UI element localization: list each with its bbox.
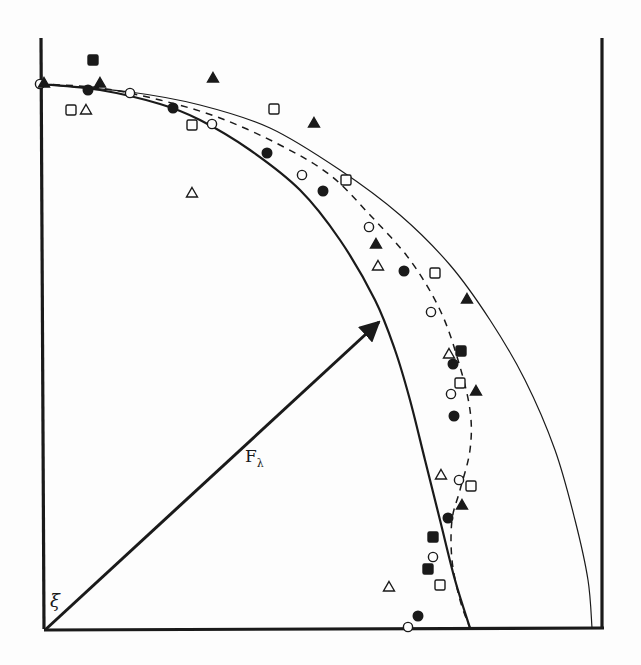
triangle-open-marker	[444, 349, 455, 359]
circle-open-marker	[403, 622, 412, 631]
circle-filled-marker	[168, 103, 178, 113]
triangle-open-marker	[81, 105, 92, 115]
series-open-triangle	[81, 105, 455, 592]
series-filled-triangle	[39, 73, 482, 510]
triangle-filled-marker	[95, 78, 106, 88]
triangle-filled-marker	[371, 239, 382, 249]
circle-filled-marker	[413, 611, 423, 621]
square-filled-marker	[428, 532, 438, 542]
vector-label-f: Fλ	[245, 446, 264, 470]
circle-open-marker	[207, 119, 216, 128]
circle-open-marker	[428, 552, 437, 561]
vector-arrow	[45, 322, 379, 630]
force-vector	[45, 322, 379, 630]
square-open-marker	[341, 175, 351, 185]
dashed-curve	[40, 84, 471, 628]
square-open-marker	[435, 580, 445, 590]
square-open-marker	[187, 120, 197, 130]
triangle-filled-marker	[457, 500, 468, 510]
series-open-square	[66, 104, 476, 590]
triangle-open-marker	[436, 470, 447, 480]
square-open-marker	[455, 378, 465, 388]
circle-filled-marker	[449, 411, 459, 421]
square-filled-marker	[423, 564, 433, 574]
circle-open-marker	[125, 88, 134, 97]
figure: ξ Fλ	[0, 0, 641, 665]
left-axis	[41, 38, 44, 629]
data-markers	[35, 55, 481, 632]
circle-filled-marker	[262, 148, 272, 158]
series-open-circle	[35, 79, 463, 631]
square-open-marker	[269, 104, 279, 114]
curves	[40, 84, 592, 628]
square-open-marker	[66, 105, 76, 115]
circle-open-marker	[364, 222, 373, 231]
series-filled-square	[88, 55, 466, 574]
triangle-filled-marker	[462, 294, 473, 304]
circle-filled-marker	[318, 186, 328, 196]
vector-label-main: F	[245, 446, 257, 466]
triangle-open-marker	[384, 582, 395, 592]
circle-open-marker	[454, 475, 463, 484]
square-filled-marker	[456, 346, 466, 356]
circle-filled-marker	[83, 85, 93, 95]
origin-label-xi: ξ	[50, 590, 61, 611]
triangle-filled-marker	[471, 386, 482, 396]
triangle-filled-marker	[309, 118, 320, 128]
square-filled-marker	[88, 55, 98, 65]
circle-filled-marker	[448, 359, 458, 369]
circle-filled-marker	[399, 266, 409, 276]
vector-label-subscript: λ	[257, 457, 264, 470]
bottom-axis	[44, 628, 604, 630]
plot-frame	[41, 38, 604, 630]
inner-solid-curve	[40, 84, 470, 628]
circle-open-marker	[297, 170, 306, 179]
triangle-filled-marker	[208, 73, 219, 83]
triangle-open-marker	[187, 188, 198, 198]
circle-filled-marker	[443, 513, 453, 523]
circle-open-marker	[446, 389, 455, 398]
triangle-open-marker	[373, 261, 384, 271]
circle-open-marker	[426, 307, 435, 316]
square-open-marker	[430, 268, 440, 278]
square-open-marker	[466, 481, 476, 491]
